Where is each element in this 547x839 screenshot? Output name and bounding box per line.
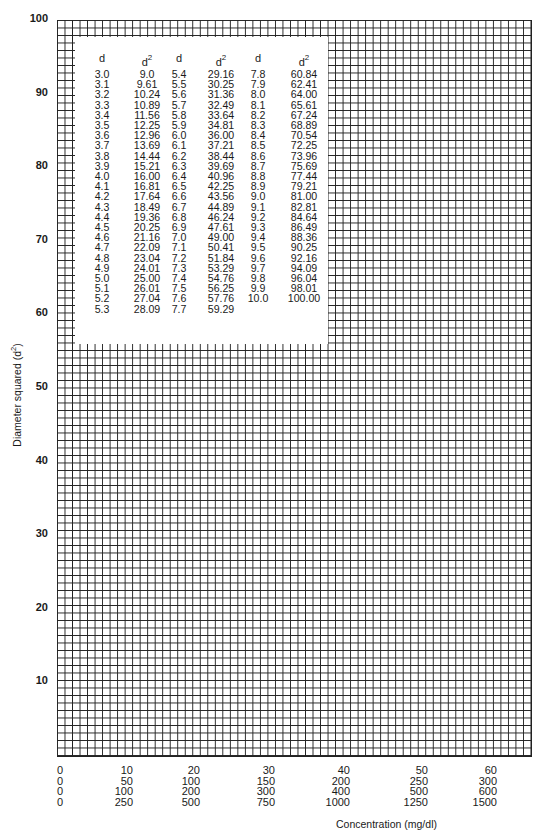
table-cell: 5.3: [91, 304, 113, 314]
x-axis-label: Concentration (mg/dl): [336, 818, 437, 830]
table-column: d7.87.98.08.18.28.38.48.58.68.78.88.99.0…: [247, 47, 269, 304]
x-tick-label: 200: [182, 786, 200, 797]
x-tick-column: 402004001000: [326, 765, 350, 807]
y-tick-label: 10: [0, 674, 48, 686]
table-column-header: d: [247, 47, 269, 69]
table-cell: 100.00: [281, 293, 327, 303]
table-cell: 59.29: [201, 304, 241, 314]
lookup-table-panel: d3.03.13.23.33.43.53.63.73.83.94.04.14.2…: [75, 37, 328, 344]
y-axis-label-end: ): [11, 343, 23, 347]
y-tick-label: 100: [0, 12, 48, 24]
table-column: d29.09.6110.2410.8911.5612.2512.9613.691…: [127, 47, 167, 314]
y-tick-label: 30: [0, 527, 48, 539]
x-tick-label: 20: [182, 765, 200, 776]
x-tick-column: 502505001250: [404, 765, 428, 807]
y-axis-label-sup: 2: [9, 347, 18, 351]
y-tick-label: 90: [0, 86, 48, 98]
x-tick-column: 30150300750: [257, 765, 275, 807]
x-tick-label: 400: [326, 786, 350, 797]
y-tick-label: 40: [0, 454, 48, 466]
x-tick-label: 300: [257, 786, 275, 797]
x-tick-label: 0: [57, 786, 63, 797]
x-tick-label: 30: [257, 765, 275, 776]
table-column: d229.1630.2531.3632.4933.6434.8136.0037.…: [201, 47, 241, 314]
x-tick-label: 1000: [326, 797, 350, 808]
x-tick-label: 500: [182, 797, 200, 808]
y-tick-label: 50: [0, 380, 48, 392]
x-tick-column: 0000: [57, 765, 63, 807]
table-column-header: d2: [281, 47, 327, 69]
x-tick-label: 10: [115, 765, 133, 776]
x-tick-label: 1250: [404, 797, 428, 808]
x-tick-label: 600: [473, 786, 497, 797]
table-column-header: d2: [127, 47, 167, 69]
x-tick-column: 603006001500: [473, 765, 497, 807]
x-tick-label: 40: [326, 765, 350, 776]
x-tick-label: 500: [404, 786, 428, 797]
table-column: d5.45.55.65.75.85.96.06.16.26.36.46.56.6…: [168, 47, 190, 314]
y-axis-label: Diameter squared (d2): [9, 343, 23, 446]
table-column-header: d: [91, 47, 113, 69]
x-tick-label: 250: [115, 797, 133, 808]
x-tick-label: 50: [404, 765, 428, 776]
x-tick-label: 60: [473, 765, 497, 776]
y-tick-label: 70: [0, 233, 48, 245]
x-tick-label: 1500: [473, 797, 497, 808]
y-tick-label: 60: [0, 306, 48, 318]
y-tick-label: 80: [0, 159, 48, 171]
table-cell: 10.0: [247, 293, 269, 303]
table-column: d260.8462.4164.0065.6167.2468.8970.5472.…: [281, 47, 327, 304]
x-tick-label: 0: [57, 797, 63, 808]
x-tick-label: 0: [57, 765, 63, 776]
x-tick-label: 750: [257, 797, 275, 808]
x-tick-column: 1050100250: [115, 765, 133, 807]
table-cell: 28.09: [127, 304, 167, 314]
x-tick-column: 20100200500: [182, 765, 200, 807]
x-tick-label: 100: [115, 786, 133, 797]
y-axis-label-text: Diameter squared (d: [11, 351, 23, 447]
table-cell: 7.7: [168, 304, 190, 314]
table-column: d3.03.13.23.33.43.53.63.73.83.94.04.14.2…: [91, 47, 113, 314]
y-tick-label: 20: [0, 601, 48, 613]
table-column-header: d2: [201, 47, 241, 69]
table-column-header: d: [168, 47, 190, 69]
